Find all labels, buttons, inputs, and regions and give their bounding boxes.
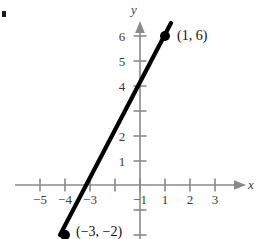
y-tick-label-6: 6 [115,30,129,43]
y-tick-label-1: 1 [115,155,129,168]
x-tick-label--3: −3 [80,193,100,206]
point-label-upper: (1, 6) [177,29,207,43]
y-tick-label-4: 4 [115,80,129,93]
x-tick-label-1: 1 [158,193,172,206]
coordinate-plane-figure: x y −5 −4 −3 −1 1 2 3 6 5 4 2 1 (1, 6) (… [0,0,267,239]
y-tick-label-5: 5 [115,55,129,68]
y-axis-arrowhead [135,21,145,33]
point-label-lower: (−3, −2) [76,225,122,239]
y-axis-label: y [131,3,137,16]
x-tick-label--4: −4 [55,193,75,206]
x-tick-label--1: −1 [130,193,150,206]
x-axis-arrowhead [234,180,246,190]
x-tick-label--5: −5 [30,193,50,206]
x-tick-label-2: 2 [183,193,197,206]
x-tick-label-3: 3 [208,193,222,206]
data-point-marker-upper [160,31,170,41]
x-axis-group [15,179,246,192]
x-axis-label: x [248,178,254,191]
y-tick-label-2: 2 [115,130,129,143]
